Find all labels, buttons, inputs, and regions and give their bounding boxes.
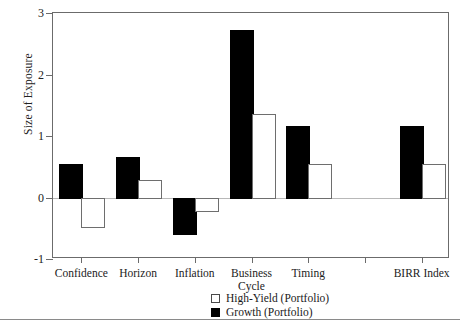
- x-axis-tick: [365, 257, 366, 263]
- x-axis-tick: [252, 257, 253, 263]
- chart-figure: Size of Exposure -10123ConfidenceHorizon…: [0, 0, 460, 334]
- bar-high-yield: [138, 180, 162, 200]
- open-square-icon: [211, 294, 220, 303]
- legend-label-growth: Growth (Portfolio): [226, 305, 313, 319]
- bar-high-yield: [195, 198, 219, 213]
- bar-growth: [400, 126, 424, 200]
- legend-item-high-yield: High-Yield (Portfolio): [211, 291, 329, 305]
- y-axis-tick: [46, 13, 53, 14]
- x-axis-tick-label: BusinessCycle: [231, 267, 272, 293]
- x-axis-tick-label: Timing: [291, 267, 324, 280]
- y-axis-tick: [46, 259, 53, 260]
- bar-growth: [286, 126, 310, 200]
- y-axis-tick: [46, 75, 53, 76]
- chart-legend: High-Yield (Portfolio) Growth (Portfolio…: [211, 291, 329, 319]
- bar-high-yield: [422, 164, 446, 199]
- bar-growth: [230, 30, 254, 199]
- bar-growth: [116, 157, 140, 200]
- bar-high-yield: [252, 114, 276, 200]
- x-axis-tick: [138, 257, 139, 263]
- x-axis-tick-label: Confidence: [55, 267, 108, 280]
- y-axis-tick: [46, 136, 53, 137]
- plot-area: -10123ConfidenceHorizonInflationBusiness…: [52, 12, 449, 258]
- y-axis-title: Size of Exposure: [22, 24, 34, 164]
- x-axis-tick: [308, 257, 309, 263]
- y-axis-tick-label: 1: [38, 136, 44, 137]
- x-axis-tick: [422, 257, 423, 263]
- x-axis-tick-label: BIRR Index: [394, 267, 450, 280]
- x-axis-tick-label: Horizon: [119, 267, 157, 280]
- bar-growth: [59, 164, 83, 200]
- x-axis-tick: [81, 257, 82, 263]
- x-axis-tick-label: Inflation: [175, 267, 215, 280]
- footer-artifact: [4, 326, 184, 333]
- y-axis-tick: [46, 198, 53, 199]
- legend-label-high-yield: High-Yield (Portfolio): [226, 291, 329, 305]
- y-axis-tick-label: -1: [34, 259, 44, 260]
- y-axis-tick-label: 3: [38, 13, 44, 14]
- y-axis-tick-label: 0: [38, 198, 44, 199]
- bar-high-yield: [81, 198, 105, 229]
- footer-divider: [0, 319, 460, 320]
- x-axis-tick: [195, 257, 196, 263]
- bar-high-yield: [308, 164, 332, 199]
- y-axis-tick-label: 2: [38, 75, 44, 76]
- filled-square-icon: [211, 308, 220, 317]
- legend-item-growth: Growth (Portfolio): [211, 305, 329, 319]
- bar-growth: [173, 198, 197, 235]
